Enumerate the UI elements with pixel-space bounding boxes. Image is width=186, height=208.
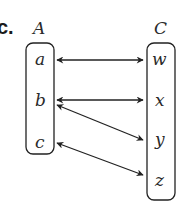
element-z: z [154,170,165,190]
element-c: c [35,132,45,152]
set-a-name: A [31,18,45,38]
arrow-b-y [57,105,143,140]
element-x: x [155,90,165,110]
element-a: a [35,49,45,69]
arrow-c-z [57,143,143,175]
element-w: w [152,49,167,69]
element-y: y [154,129,165,149]
set-c-name: C [154,18,167,38]
part-label: c. [0,16,14,38]
element-b: b [35,90,46,110]
relation-diagram: c. A C a b c w x y z [0,0,186,208]
